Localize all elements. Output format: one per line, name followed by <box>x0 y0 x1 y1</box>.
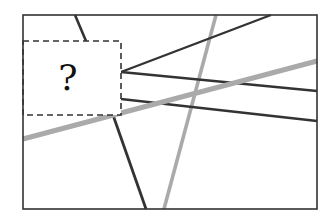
line-gray-steep <box>164 15 216 209</box>
line-dark-c <box>121 15 271 72</box>
question-mark-label: ? <box>23 41 121 115</box>
line-dark-e <box>121 99 317 121</box>
line-dark-a <box>75 15 86 41</box>
line-dark-b <box>113 115 146 209</box>
